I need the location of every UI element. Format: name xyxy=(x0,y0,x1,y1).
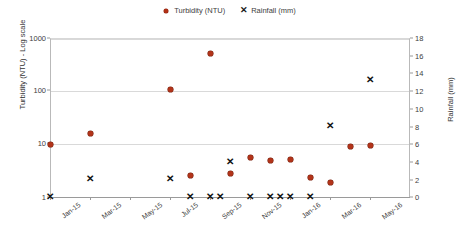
x-tick-label-mar-15: Mar-15 xyxy=(100,201,122,220)
data-point-rainfall: ✕ xyxy=(285,192,295,202)
legend-label-rainfall: Rainfall (mm) xyxy=(251,6,296,15)
y-tickmark-left-100 xyxy=(47,90,50,91)
data-point-rainfall: ✕ xyxy=(325,121,335,131)
x-tickmark-1 xyxy=(90,197,91,200)
data-point-rainfall: ✕ xyxy=(85,174,95,184)
data-point-turbidity xyxy=(48,142,53,147)
y-tickmark-right-8 xyxy=(410,126,413,127)
data-point-turbidity xyxy=(188,173,193,178)
x-tickmark-2 xyxy=(130,197,131,200)
data-point-turbidity xyxy=(228,171,233,176)
x-tick-label-jan-16: Jan-16 xyxy=(300,201,321,219)
x-tickmark-8 xyxy=(370,197,371,200)
y-tickmark-right-2 xyxy=(410,179,413,180)
y-tickmark-right-14 xyxy=(410,73,413,74)
data-point-turbidity xyxy=(288,157,293,162)
y-tickmark-right-16 xyxy=(410,55,413,56)
x-tick-label-nov-15: Nov-15 xyxy=(261,201,283,220)
data-point-rainfall: ✕ xyxy=(165,174,175,184)
y-tickmark-right-10 xyxy=(410,108,413,109)
x-tick-label-mar-16: Mar-16 xyxy=(340,201,362,220)
data-point-rainfall: ✕ xyxy=(305,192,315,202)
y-tick-left-10: 10 xyxy=(10,139,50,148)
gridline-10 xyxy=(51,144,409,145)
x-tick-label-jul-15: Jul-15 xyxy=(180,201,199,218)
x-tick-label-may-15: May-15 xyxy=(141,201,164,221)
y-tickmark-right-18 xyxy=(410,38,413,39)
cross-marker-icon: ✕ xyxy=(239,6,248,15)
y-tickmark-right-6 xyxy=(410,144,413,145)
data-point-turbidity xyxy=(88,131,93,136)
data-point-turbidity xyxy=(348,144,353,149)
y-tickmark-left-1000 xyxy=(47,38,50,39)
y-axis-left-ticks: 1000 100 10 1 xyxy=(10,0,50,242)
legend-item-turbidity: Turbidity (NTU) xyxy=(162,6,225,15)
data-point-rainfall: ✕ xyxy=(365,75,375,85)
x-tickmark-7 xyxy=(330,197,331,200)
data-point-rainfall: ✕ xyxy=(275,192,285,202)
data-point-rainfall: ✕ xyxy=(205,192,215,202)
data-point-rainfall: ✕ xyxy=(215,192,225,202)
diamond-marker-icon xyxy=(162,6,171,15)
data-point-rainfall: ✕ xyxy=(225,157,235,167)
data-point-turbidity xyxy=(248,155,253,160)
y-tick-left-100: 100 xyxy=(10,86,50,95)
y-tick-left-1: 1 xyxy=(10,193,50,202)
legend-label-turbidity: Turbidity (NTU) xyxy=(174,6,225,15)
data-point-turbidity xyxy=(308,175,313,180)
x-tick-label-may-16: May-16 xyxy=(381,201,404,221)
y-tick-left-1000: 1000 xyxy=(10,34,50,43)
data-point-turbidity xyxy=(328,180,333,185)
y-axis-right-ticks: 18 16 14 12 10 8 6 4 2 0 xyxy=(410,0,450,242)
data-point-rainfall: ✕ xyxy=(185,192,195,202)
x-tick-label-jan-15: Jan-15 xyxy=(60,201,81,219)
data-point-rainfall: ✕ xyxy=(45,192,55,202)
gridline-100 xyxy=(51,91,409,92)
turbidity-rainfall-chart: Turbidity (NTU) ✕ Rainfall (mm) Turbidit… xyxy=(0,0,458,242)
chart-legend: Turbidity (NTU) ✕ Rainfall (mm) xyxy=(0,6,458,15)
x-tickmark-3 xyxy=(170,197,171,200)
legend-item-rainfall: ✕ Rainfall (mm) xyxy=(239,6,296,15)
data-point-rainfall: ✕ xyxy=(265,192,275,202)
data-point-rainfall: ✕ xyxy=(245,192,255,202)
x-axis-line xyxy=(50,197,410,198)
y-tickmark-right-4 xyxy=(410,161,413,162)
x-tick-label-sep-15: Sep-15 xyxy=(221,201,243,220)
gridline-1000 xyxy=(51,39,409,40)
data-point-turbidity xyxy=(168,87,173,92)
y-tickmark-right-0 xyxy=(410,197,413,198)
y-tickmark-right-12 xyxy=(410,91,413,92)
data-point-turbidity xyxy=(368,143,373,148)
data-point-turbidity xyxy=(268,158,273,163)
